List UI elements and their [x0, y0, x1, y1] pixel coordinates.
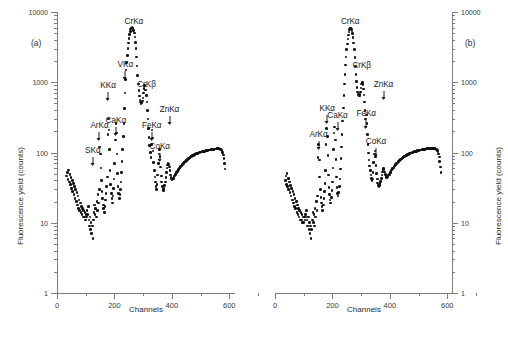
x-axis-line — [275, 293, 453, 294]
x-tick-label: 200 — [108, 301, 121, 310]
y-tick-minor — [452, 156, 455, 157]
panel-b-xaxis-title: Channels — [347, 305, 381, 314]
data-point — [138, 89, 141, 92]
data-point — [296, 204, 299, 207]
x-tick-label: 600 — [223, 301, 236, 310]
peak-label: CaKα — [106, 116, 126, 125]
data-point — [152, 161, 155, 164]
data-point — [104, 205, 107, 208]
data-point — [302, 221, 305, 224]
x-tick-label: 0 — [55, 301, 59, 310]
data-point — [150, 156, 153, 159]
data-point — [145, 94, 148, 97]
data-point — [341, 133, 344, 136]
data-point — [318, 159, 321, 162]
data-point — [351, 32, 354, 35]
y-tick-minor — [54, 110, 57, 111]
data-point — [380, 177, 383, 180]
data-point — [108, 148, 111, 151]
data-point — [165, 176, 168, 179]
data-point — [324, 169, 327, 172]
data-point — [320, 196, 323, 199]
data-point — [353, 48, 356, 51]
data-point — [332, 167, 335, 170]
y-tick-minor — [452, 238, 455, 239]
y-axis-line — [57, 12, 58, 293]
peak-arrow — [99, 132, 100, 140]
peak-label: ZnKα — [160, 105, 180, 114]
data-point — [335, 158, 338, 161]
data-point — [371, 178, 374, 181]
x-tick-label: 200 — [326, 301, 339, 310]
data-point — [135, 47, 138, 50]
y-tick-minor — [54, 28, 57, 29]
y-tick-minor — [452, 230, 455, 231]
y-tick-minor — [54, 272, 57, 273]
peak-arrow — [115, 127, 116, 135]
peak-arrow — [159, 153, 160, 161]
data-point — [146, 109, 149, 112]
data-point — [113, 162, 116, 165]
data-point — [165, 171, 168, 174]
y-tick-minor — [452, 89, 455, 90]
peak-label: CrKβ — [352, 61, 371, 70]
peak-label: VKα — [118, 60, 134, 69]
y-tick-minor — [452, 189, 455, 190]
data-point — [343, 94, 346, 97]
x-tick-major — [332, 293, 333, 299]
data-point — [293, 193, 296, 196]
data-point — [359, 91, 362, 94]
data-point — [370, 174, 373, 177]
data-point — [168, 166, 171, 169]
data-point — [223, 162, 226, 165]
y-tick-minor — [452, 163, 455, 164]
data-point — [322, 204, 325, 207]
data-point — [339, 178, 342, 181]
data-point — [92, 237, 95, 240]
data-point — [113, 178, 116, 181]
y-tick-minor — [54, 244, 57, 245]
data-point — [314, 216, 317, 219]
data-point — [101, 190, 104, 193]
y-tick-minor — [54, 234, 57, 235]
data-point — [329, 202, 332, 205]
y-tick-minor — [452, 244, 455, 245]
data-point — [316, 209, 319, 212]
peak-arrow — [376, 148, 377, 156]
data-point — [368, 159, 371, 162]
y-tick-major — [452, 82, 458, 83]
data-point — [126, 54, 129, 57]
y-tick-major — [51, 12, 57, 13]
data-point — [156, 183, 159, 186]
x-tick-major — [275, 293, 276, 299]
data-point — [308, 221, 311, 224]
data-point — [340, 146, 343, 149]
data-point — [69, 173, 72, 176]
data-point — [105, 185, 108, 188]
peak-label: CrKβ — [137, 80, 156, 89]
data-point — [347, 38, 350, 41]
data-point — [106, 176, 109, 179]
y-tick-minor — [54, 93, 57, 94]
peak-label: SKα — [85, 146, 101, 155]
panel-b: (b) 1101001000100000200400600CrKαCrKβZnK… — [254, 0, 508, 326]
data-point — [222, 154, 225, 157]
x-tick-major — [390, 293, 391, 299]
data-point — [109, 183, 112, 186]
data-point — [141, 100, 144, 103]
data-point — [346, 43, 349, 46]
data-point — [375, 172, 378, 175]
y-tick-minor — [452, 159, 455, 160]
data-point — [287, 177, 290, 180]
data-point — [76, 191, 79, 194]
data-point — [345, 56, 348, 59]
data-point — [74, 188, 77, 191]
data-point — [223, 157, 226, 160]
data-point — [292, 190, 295, 193]
data-point — [438, 160, 441, 163]
data-point — [315, 200, 318, 203]
data-point — [376, 178, 379, 181]
y-tick-minor — [54, 119, 57, 120]
y-tick-label: 10000 — [29, 8, 49, 17]
data-point — [337, 191, 340, 194]
